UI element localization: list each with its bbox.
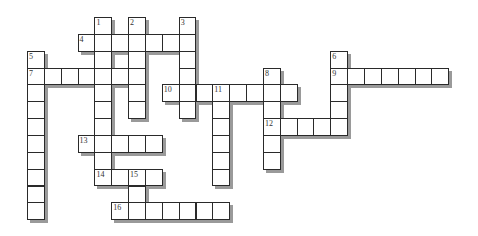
crossword-cell[interactable] — [27, 152, 45, 170]
crossword-cell[interactable] — [263, 101, 281, 119]
crossword-cell[interactable]: 16 — [111, 202, 129, 220]
crossword-cell[interactable] — [145, 34, 163, 52]
crossword-cell[interactable]: 4 — [78, 34, 96, 52]
crossword-cell[interactable] — [431, 68, 449, 86]
crossword-cell[interactable] — [44, 68, 62, 86]
crossword-cell[interactable] — [364, 68, 382, 86]
crossword-grid: 11423457698121011131516 — [0, 0, 478, 236]
crossword-cell[interactable] — [128, 186, 146, 204]
crossword-cell[interactable] — [128, 84, 146, 102]
crossword-cell[interactable] — [212, 118, 230, 136]
crossword-cell[interactable] — [179, 34, 197, 52]
crossword-cell[interactable] — [330, 84, 348, 102]
crossword-cell[interactable] — [263, 84, 281, 102]
crossword-cell[interactable] — [128, 101, 146, 119]
crossword-cell[interactable] — [128, 135, 146, 153]
crossword-cell[interactable] — [128, 51, 146, 69]
crossword-cell[interactable]: 8 — [263, 68, 281, 86]
crossword-cell[interactable] — [94, 101, 112, 119]
crossword-cell[interactable] — [27, 202, 45, 220]
crossword-cell[interactable]: 2 — [128, 17, 146, 35]
crossword-cell[interactable] — [246, 84, 264, 102]
crossword-cell[interactable] — [212, 202, 230, 220]
crossword-cell[interactable] — [27, 118, 45, 136]
crossword-cell[interactable] — [280, 118, 298, 136]
crossword-cell[interactable] — [179, 68, 197, 86]
crossword-cell[interactable] — [297, 118, 315, 136]
crossword-cell[interactable] — [78, 68, 96, 86]
crossword-cell[interactable] — [27, 186, 45, 204]
crossword-cell[interactable] — [145, 169, 163, 187]
crossword-cell[interactable] — [196, 84, 214, 102]
crossword-cell[interactable]: 13 — [78, 135, 96, 153]
clue-number: 12 — [265, 119, 273, 128]
clue-number: 2 — [130, 18, 134, 27]
crossword-cell[interactable] — [212, 152, 230, 170]
clue-number: 15 — [130, 170, 138, 179]
crossword-cell[interactable] — [128, 68, 146, 86]
crossword-cell[interactable] — [347, 68, 365, 86]
crossword-cell[interactable] — [179, 202, 197, 220]
crossword-cell[interactable] — [179, 101, 197, 119]
clue-number: 11 — [214, 85, 222, 94]
crossword-cell[interactable] — [145, 202, 163, 220]
crossword-cell[interactable] — [280, 84, 298, 102]
crossword-cell[interactable] — [27, 84, 45, 102]
crossword-cell[interactable] — [94, 68, 112, 86]
crossword-cell[interactable] — [111, 34, 129, 52]
crossword-cell[interactable] — [381, 68, 399, 86]
crossword-cell[interactable] — [229, 84, 247, 102]
crossword-cell[interactable] — [94, 135, 112, 153]
crossword-cell[interactable] — [145, 135, 163, 153]
clue-number: 1 — [96, 18, 100, 27]
crossword-cell[interactable] — [94, 118, 112, 136]
clue-number: 3 — [181, 18, 185, 27]
crossword-cell[interactable] — [179, 84, 197, 102]
crossword-cell[interactable] — [196, 202, 214, 220]
crossword-cell[interactable] — [162, 202, 180, 220]
crossword-cell[interactable] — [27, 101, 45, 119]
crossword-cell[interactable]: 3 — [179, 17, 197, 35]
crossword-cell[interactable] — [94, 84, 112, 102]
clue-number: 8 — [265, 69, 269, 78]
clue-number: 4 — [80, 35, 84, 44]
clue-number: 7 — [29, 69, 33, 78]
crossword-cell[interactable] — [212, 101, 230, 119]
clue-number: 5 — [29, 52, 33, 61]
crossword-cell[interactable]: 1 — [94, 17, 112, 35]
crossword-cell[interactable] — [212, 169, 230, 187]
crossword-cell[interactable]: 14 — [94, 169, 112, 187]
crossword-cell[interactable] — [263, 135, 281, 153]
crossword-cell[interactable] — [94, 34, 112, 52]
crossword-cell[interactable]: 12 — [263, 118, 281, 136]
crossword-cell[interactable] — [111, 135, 129, 153]
crossword-cell[interactable] — [128, 202, 146, 220]
crossword-cell[interactable] — [61, 68, 79, 86]
crossword-cell[interactable]: 5 — [27, 51, 45, 69]
crossword-cell[interactable]: 6 — [330, 51, 348, 69]
crossword-cell[interactable] — [94, 152, 112, 170]
clue-number: 10 — [164, 85, 172, 94]
crossword-cell[interactable] — [330, 118, 348, 136]
crossword-cell[interactable] — [212, 135, 230, 153]
crossword-cell[interactable]: 15 — [128, 169, 146, 187]
crossword-cell[interactable] — [263, 152, 281, 170]
crossword-cell[interactable]: 11 — [212, 84, 230, 102]
clue-number: 14 — [96, 170, 104, 179]
crossword-cell[interactable] — [27, 169, 45, 187]
crossword-cell[interactable] — [94, 51, 112, 69]
crossword-cell[interactable] — [128, 34, 146, 52]
crossword-cell[interactable] — [415, 68, 433, 86]
crossword-cell[interactable] — [179, 51, 197, 69]
clue-number: 9 — [332, 69, 336, 78]
crossword-cell[interactable] — [313, 118, 331, 136]
crossword-cell[interactable] — [111, 68, 129, 86]
crossword-cell[interactable] — [27, 135, 45, 153]
crossword-cell[interactable]: 7 — [27, 68, 45, 86]
crossword-cell[interactable] — [162, 34, 180, 52]
crossword-cell[interactable]: 10 — [162, 84, 180, 102]
crossword-cell[interactable] — [398, 68, 416, 86]
crossword-cell[interactable]: 9 — [330, 68, 348, 86]
crossword-cell[interactable] — [330, 101, 348, 119]
crossword-cell[interactable] — [111, 169, 129, 187]
